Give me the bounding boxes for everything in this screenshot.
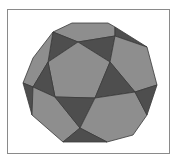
triangle-face	[23, 83, 33, 115]
icosidodecahedron-figure	[0, 0, 180, 161]
polyhedron-faces	[23, 23, 157, 142]
